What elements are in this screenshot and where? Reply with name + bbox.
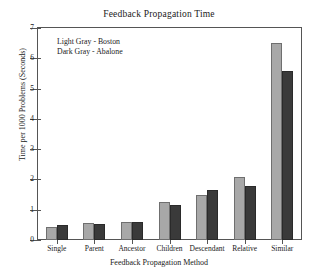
chart-legend: Light Gray - Boston Dark Gray - Abalone — [57, 37, 123, 57]
y-tick-mark-inner — [37, 240, 41, 241]
y-tick-label: 4 — [20, 115, 34, 123]
bar-parent-boston — [83, 223, 94, 240]
x-tick-label-similar: Similar — [250, 244, 314, 253]
y-tick-label: 7 — [20, 24, 34, 32]
legend-entry-boston: Light Gray - Boston — [57, 37, 123, 47]
y-tick-label: 5 — [20, 85, 34, 93]
bar-ancestor-abalone — [132, 222, 143, 240]
bar-similar-abalone — [282, 71, 293, 240]
plot-area — [38, 28, 301, 240]
chart-figure: Feedback Propagation Time Time per 1000 … — [0, 0, 318, 280]
bar-parent-abalone — [94, 224, 105, 240]
bar-children-boston — [159, 202, 170, 240]
x-axis-label: Feedback Propagation Method — [0, 258, 318, 267]
bar-relative-abalone — [245, 186, 256, 241]
y-tick-label: 3 — [20, 145, 34, 153]
bar-descendant-boston — [196, 195, 207, 240]
bar-descendant-abalone — [207, 190, 218, 240]
bar-single-abalone — [57, 225, 68, 240]
y-tick-label: 2 — [20, 175, 34, 183]
bar-children-abalone — [170, 205, 181, 240]
bar-similar-boston — [271, 43, 282, 240]
y-tick-label: 6 — [20, 54, 34, 62]
bar-ancestor-boston — [121, 222, 132, 240]
bar-single-boston — [46, 227, 57, 240]
y-tick-label: 0 — [20, 236, 34, 244]
bar-relative-boston — [234, 177, 245, 240]
y-tick-label: 1 — [20, 206, 34, 214]
legend-entry-abalone: Dark Gray - Abalone — [57, 47, 123, 57]
chart-title: Feedback Propagation Time — [0, 9, 318, 19]
